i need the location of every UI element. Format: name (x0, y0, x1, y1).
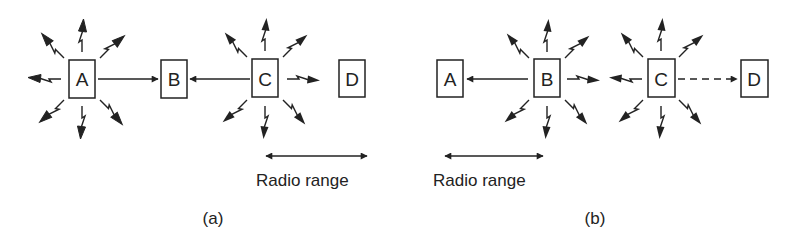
svg-text:D: D (747, 69, 761, 90)
node-b-d: D (741, 60, 768, 97)
node-b-c: C (648, 59, 675, 97)
svg-text:A: A (76, 69, 89, 90)
node-a-c: C (252, 59, 278, 97)
svg-text:C: C (654, 69, 668, 90)
node-a-a: A (69, 60, 95, 98)
panel-a: A B C D Radio range (a) (28, 18, 367, 228)
svg-text:C: C (258, 69, 272, 90)
radio-range-label-a: Radio range (256, 171, 349, 190)
svg-text:D: D (345, 69, 359, 90)
node-a-d: D (339, 60, 365, 97)
svg-text:B: B (541, 69, 554, 90)
caption-b: (b) (585, 209, 606, 228)
caption-a: (a) (203, 209, 224, 228)
radio-range-label-b: Radio range (433, 171, 526, 190)
node-b-b: B (534, 59, 560, 97)
wireless-hidden-exposed-terminal-diagram: A B C D Radio range (a) (0, 0, 791, 247)
svg-text:B: B (168, 69, 181, 90)
panel-b: A B C D Radio range (b) (433, 18, 768, 228)
svg-text:A: A (444, 69, 457, 90)
node-b-a: A (437, 60, 463, 97)
node-a-b: B (161, 60, 187, 98)
